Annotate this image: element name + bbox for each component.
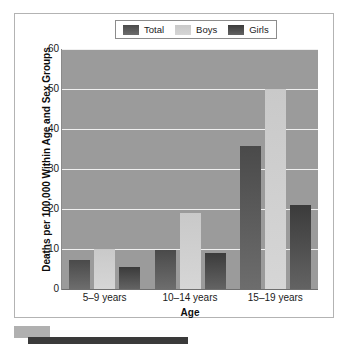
- legend-item-girls: Girls: [228, 25, 269, 35]
- legend-label-girls: Girls: [249, 25, 269, 35]
- y-axis-tick-labels: 0102030405060: [27, 49, 59, 289]
- legend-item-boys: Boys: [175, 25, 217, 35]
- x-tick-label-3: 15–19 years: [233, 293, 318, 303]
- plot-area: [62, 49, 318, 289]
- y-tick-label-60: 60: [31, 44, 59, 54]
- legend-swatch-girls-icon: [228, 25, 244, 35]
- y-tick-label-30: 30: [31, 164, 59, 174]
- bar-total-group-2: [155, 250, 176, 289]
- y-tick-label-40: 40: [31, 124, 59, 134]
- y-tick-label-10: 10: [31, 244, 59, 254]
- x-axis-line: [62, 289, 318, 290]
- x-tick-label-1: 5–9 years: [62, 293, 147, 303]
- bar-girls-group-2: [205, 253, 226, 289]
- y-tick-label-20: 20: [31, 204, 59, 214]
- bar-total-group-1: [69, 260, 90, 289]
- legend-swatch-total-icon: [123, 25, 139, 35]
- caption-strip: [14, 326, 254, 344]
- bar-girls-group-1: [119, 267, 140, 289]
- legend-item-total: Total: [123, 25, 164, 35]
- legend-swatch-boys-icon: [175, 25, 191, 35]
- x-axis-tick-labels: 5–9 years10–14 years15–19 years: [62, 293, 318, 303]
- chart-legend: Total Boys Girls: [115, 20, 277, 39]
- bar-total-group-3: [240, 146, 261, 289]
- bar-boys-group-2: [180, 213, 201, 289]
- caption-bar: [28, 337, 188, 344]
- y-tick-label-50: 50: [31, 84, 59, 94]
- bar-boys-group-3: [265, 89, 286, 289]
- figure-frame: Total Boys Girls Deaths per 100,000 With…: [14, 13, 334, 318]
- y-tick-label-0: 0: [31, 284, 59, 294]
- legend-label-boys: Boys: [196, 25, 217, 35]
- gridline-60: [62, 49, 318, 50]
- x-tick-label-2: 10–14 years: [147, 293, 232, 303]
- legend-label-total: Total: [144, 25, 164, 35]
- bar-boys-group-1: [94, 249, 115, 289]
- x-axis-title: Age: [62, 307, 318, 318]
- bar-girls-group-3: [290, 205, 311, 289]
